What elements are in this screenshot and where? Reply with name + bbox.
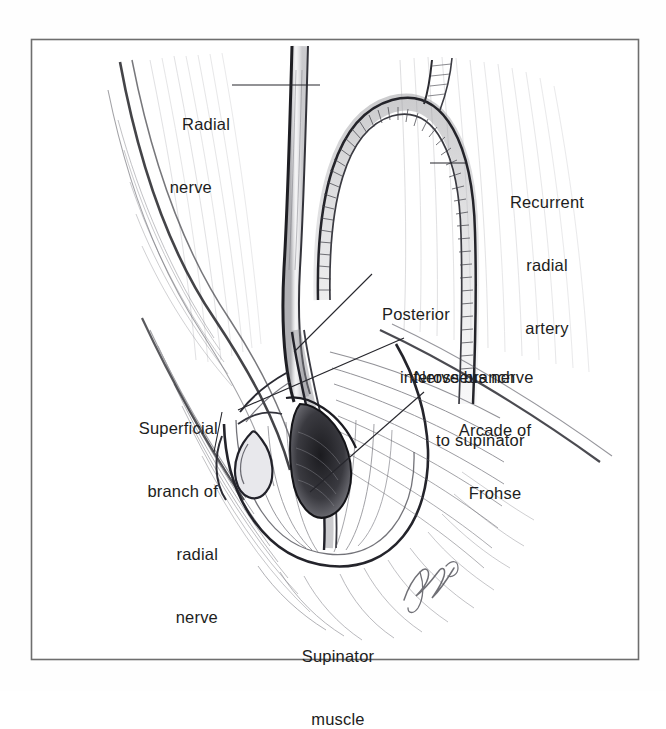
label-posterior-interosseus-nerve-line1: Posterior — [382, 304, 582, 325]
label-radial-nerve: Radial nerve — [120, 72, 230, 240]
label-arcade-of-frohse: Arcade of Frohse — [430, 378, 560, 546]
caption-line2: muscle — [258, 709, 418, 729]
label-radial-nerve-line2: nerve — [120, 177, 230, 198]
label-superficial-branch-of-radial-nerve: Superficial branch of radial nerve — [96, 376, 218, 670]
label-radial-nerve-line1: Radial — [120, 114, 230, 135]
label-recurrent-radial-artery-line1: Recurrent — [472, 192, 622, 213]
caption-supinator-muscle: Supinator muscle — [258, 604, 418, 729]
label-arcade-of-frohse-line2: Frohse — [430, 483, 560, 504]
label-superficial-branch-line1: Superficial — [96, 418, 218, 439]
label-superficial-branch-line2: branch of — [96, 481, 218, 502]
label-arcade-of-frohse-line1: Arcade of — [430, 420, 560, 441]
label-superficial-branch-line4: nerve — [96, 607, 218, 628]
label-superficial-branch-line3: radial — [96, 544, 218, 565]
caption-line1: Supinator — [258, 646, 418, 667]
